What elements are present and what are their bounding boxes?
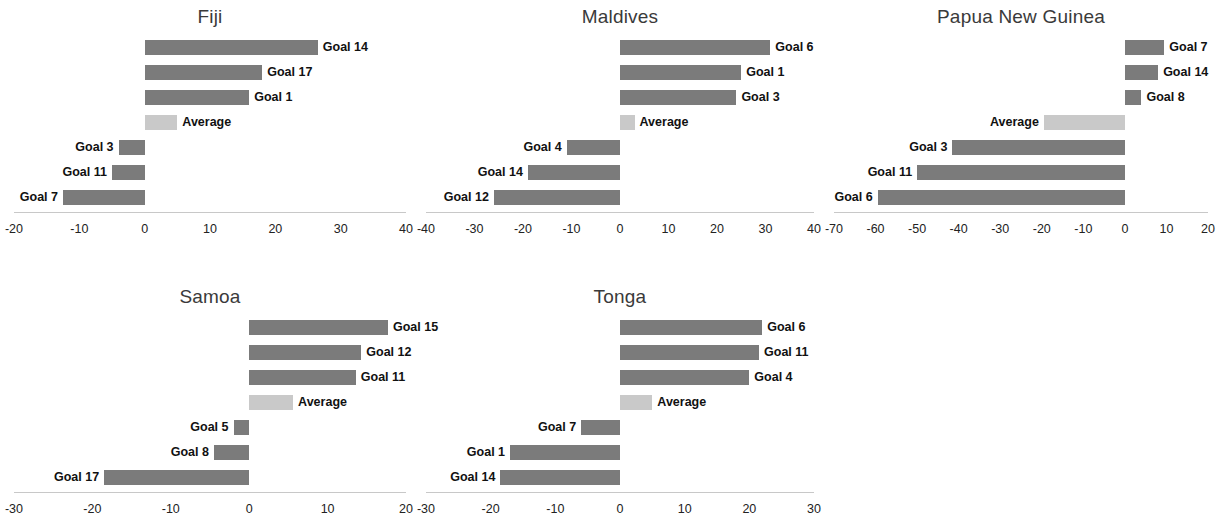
x-tick-label: -20 [1022,222,1062,236]
plot-area: Goal 15Goal 12Goal 11AverageGoal 5Goal 8… [14,310,406,515]
bar-goal-17 [104,470,249,485]
bar-goal-12 [494,190,620,205]
bar-label: Average [182,113,231,132]
bar-row: Goal 4 [426,368,814,387]
x-tick-label: 0 [125,222,165,236]
bar-goal-6 [620,40,770,55]
bar-label: Goal 1 [746,63,784,82]
bar-row: Goal 3 [14,138,406,157]
bar-row: Goal 14 [426,163,814,182]
bar-label: Goal 3 [75,138,113,157]
bar-goal-4 [567,140,620,155]
x-tick-label: 30 [746,222,786,236]
bar-label: Goal 7 [538,418,576,437]
bar-row: Goal 14 [834,63,1208,82]
x-tick-label: -30 [455,222,495,236]
bar-row: Average [834,113,1208,132]
x-axis-line [14,492,406,493]
x-tick-label: 0 [229,502,269,516]
x-tick-label: -60 [856,222,896,236]
bar-row: Goal 7 [14,188,406,207]
bar-row: Average [426,393,814,412]
bar-goal-7 [63,190,145,205]
bar-row: Goal 6 [426,38,814,57]
bar-label: Goal 14 [323,38,368,57]
x-tick-label: -10 [1063,222,1103,236]
bar-label: Goal 17 [267,63,312,82]
chart-panel-papua-new-guinea: Papua New GuineaGoal 7Goal 14Goal 8Avera… [828,4,1214,235]
x-tick-label: 10 [649,222,689,236]
bar-goal-11 [112,165,145,180]
bar-label: Goal 11 [868,163,912,182]
x-tick-label: 0 [1105,222,1145,236]
x-tick-label: -30 [406,502,446,516]
x-tick-label: 10 [1146,222,1186,236]
bar-row: Goal 17 [14,63,406,82]
bar-label: Goal 12 [366,343,411,362]
x-tick-label: -10 [552,222,592,236]
bar-label: Goal 3 [909,138,947,157]
bar-row: Goal 17 [14,468,406,487]
x-tick-label: 0 [600,222,640,236]
bar-label: Goal 1 [254,88,292,107]
bar-row: Goal 15 [14,318,406,337]
x-tick-label: 30 [321,222,361,236]
bar-row: Goal 12 [426,188,814,207]
bar-goal-14 [145,40,318,55]
bar-row: Average [14,393,406,412]
bar-goal-6 [620,320,762,335]
bar-goal-6 [878,190,1125,205]
bar-goal-3 [952,140,1124,155]
chart-title: Papua New Guinea [828,4,1214,30]
bar-row: Goal 5 [14,418,406,437]
bar-row: Goal 14 [14,38,406,57]
bar-row: Goal 7 [834,38,1208,57]
bar-label: Goal 4 [754,368,792,387]
chart-title: Maldives [420,4,820,30]
x-tick-label: -20 [471,502,511,516]
x-axis-line [14,212,406,213]
bar-label: Goal 5 [190,418,228,437]
x-tick-label: -10 [59,222,99,236]
plot-area: Goal 7Goal 14Goal 8AverageGoal 3Goal 11G… [834,30,1208,235]
chart-panel-fiji: FijiGoal 14Goal 17Goal 1AverageGoal 3Goa… [8,4,412,235]
bar-goal-8 [1125,90,1142,105]
chart-panel-tonga: TongaGoal 6Goal 11Goal 4AverageGoal 7Goa… [420,284,820,515]
bar-row: Goal 3 [426,88,814,107]
bar-label: Goal 14 [1163,63,1208,82]
bar-average [620,395,652,410]
plot-area: Goal 14Goal 17Goal 1AverageGoal 3Goal 11… [14,30,406,235]
bar-label: Goal 3 [741,88,779,107]
bar-average [620,115,635,130]
bar-row: Goal 3 [834,138,1208,157]
chart-title: Tonga [420,284,820,310]
chart-panel-samoa: SamoaGoal 15Goal 12Goal 11AverageGoal 5G… [8,284,412,515]
x-tick-label: -30 [0,502,34,516]
bar-label: Goal 8 [171,443,209,462]
x-tick-label: 0 [600,502,640,516]
bar-row: Goal 7 [426,418,814,437]
x-axis-line [834,212,1208,213]
bar-goal-11 [620,345,759,360]
bar-label: Goal 1 [467,443,505,462]
bar-label: Goal 11 [361,368,405,387]
bar-row: Goal 1 [14,88,406,107]
bar-row: Goal 12 [14,343,406,362]
chart-title: Fiji [8,4,412,30]
bar-goal-1 [510,445,620,460]
bar-average [1044,115,1125,130]
bar-average [249,395,293,410]
bar-goal-15 [249,320,388,335]
bar-goal-14 [528,165,620,180]
bar-goal-3 [119,140,145,155]
bar-goal-4 [620,370,749,385]
bar-average [145,115,178,130]
bar-goal-11 [249,370,356,385]
x-tick-label: 10 [665,502,705,516]
x-tick-label: -20 [0,222,34,236]
bar-goal-1 [620,65,741,80]
bar-label: Average [990,113,1039,132]
bar-row: Goal 4 [426,138,814,157]
plot-area: Goal 6Goal 11Goal 4AverageGoal 7Goal 1Go… [426,310,814,515]
